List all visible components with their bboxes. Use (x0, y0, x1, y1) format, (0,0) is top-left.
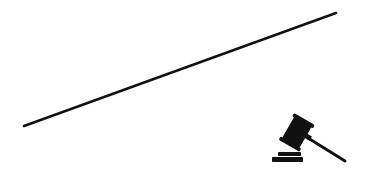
diagonal-line (24, 13, 336, 126)
illustration-canvas (0, 0, 367, 179)
gavel-icon (272, 113, 345, 162)
